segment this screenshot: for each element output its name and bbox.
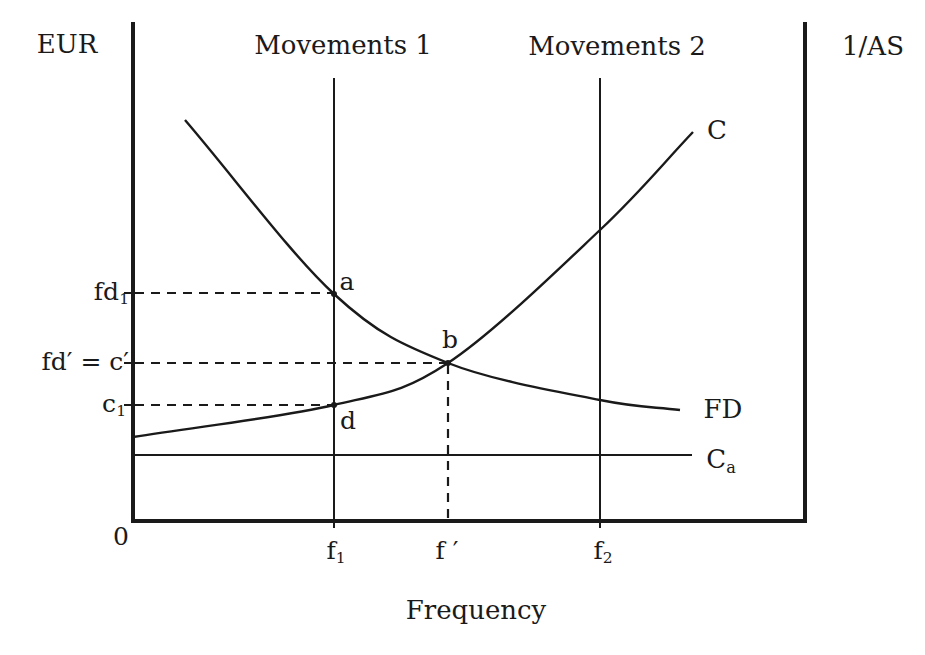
c-curve — [133, 132, 693, 437]
x-tick-label-fprime: f ′ — [436, 538, 459, 563]
c-curve-label: C — [707, 117, 727, 143]
fd-curve-label: FD — [704, 396, 743, 422]
y-tick-label-c1: c1 — [102, 391, 126, 420]
ca-curve-label: Ca — [706, 446, 736, 476]
point-d-label: d — [340, 408, 356, 433]
y-axis-left-label: EUR — [37, 31, 97, 57]
x-axis-title: Frequency — [406, 597, 547, 623]
y-tick-label-fdprime-cprime: fd′ = c′ — [42, 349, 129, 374]
point-b-label: b — [442, 327, 458, 352]
y-tick-label-fd1: fd1 — [94, 279, 129, 308]
fd-curve — [185, 120, 680, 410]
diagram-canvas — [0, 0, 925, 655]
point-b-dot — [445, 360, 451, 366]
movements-2-label: Movements 2 — [528, 33, 706, 59]
y-axis-right-label: 1/AS — [842, 33, 904, 59]
point-a-label: a — [340, 269, 355, 294]
x-tick-label-f2: f2 — [593, 538, 612, 567]
ca-subscript: a — [726, 458, 736, 477]
point-a-dot — [331, 291, 337, 297]
economics-diagram: EUR 1/AS Movements 1 Movements 2 C FD Ca… — [0, 0, 925, 655]
origin-label: 0 — [113, 524, 129, 549]
x-tick-label-f1: f1 — [326, 538, 345, 567]
movements-1-label: Movements 1 — [254, 32, 432, 58]
point-d-dot — [331, 402, 337, 408]
